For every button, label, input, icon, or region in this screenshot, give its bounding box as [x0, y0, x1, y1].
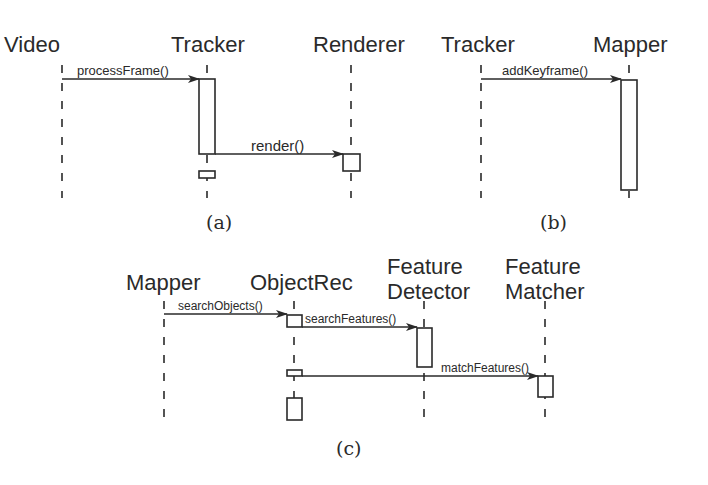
activation-tracker-a [199, 79, 215, 154]
participant-tracker-a: Tracker [171, 34, 245, 56]
message-processframe: processFrame() [77, 64, 169, 77]
sequence-diagrams-figure: Video Tracker Renderer processFrame() re… [0, 0, 708, 485]
message-addkeyframe: addKeyframe() [502, 64, 588, 77]
activation-objectrec-3 [287, 398, 302, 420]
caption-c: (c) [336, 439, 361, 458]
message-searchfeatures: searchFeatures() [305, 313, 396, 325]
activation-objectrec-1 [287, 315, 302, 327]
participant-feature-matcher-line1: Feature [505, 256, 581, 278]
caption-a: (a) [206, 213, 232, 232]
participant-feature-matcher-line2: Matcher [505, 281, 584, 303]
participant-renderer: Renderer [313, 34, 405, 56]
activation-feature-detector [417, 328, 432, 367]
participant-mapper-c: Mapper [126, 272, 201, 294]
participant-video: Video [4, 34, 60, 56]
activation-feature-matcher [538, 376, 553, 397]
participant-mapper-b: Mapper [593, 34, 668, 56]
activation-tracker-a-small [199, 171, 215, 178]
message-matchfeatures: matchFeatures() [441, 362, 529, 374]
message-searchobjects: searchObjects() [178, 300, 263, 312]
participant-feature-detector-line2: Detector [387, 281, 470, 303]
activation-renderer [343, 154, 360, 171]
activation-mapper-b [621, 80, 637, 190]
participant-tracker-b: Tracker [441, 34, 515, 56]
participant-feature-detector-line1: Feature [387, 256, 463, 278]
caption-b: (b) [540, 213, 567, 232]
participant-objectrec: ObjectRec [250, 272, 353, 294]
activation-objectrec-2 [287, 370, 302, 376]
message-render: render() [251, 138, 304, 153]
